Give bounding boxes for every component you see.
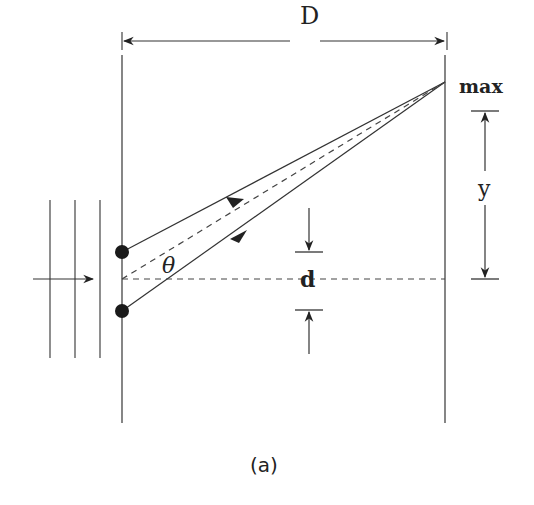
caption: (a)	[250, 455, 278, 475]
distance-dimension	[122, 32, 447, 50]
double-slit-diagram	[0, 0, 534, 505]
slit-separation-label: d	[300, 268, 315, 290]
plane-wavefronts	[33, 200, 100, 358]
height-label: y	[478, 178, 490, 200]
slit-top	[115, 245, 129, 259]
maximum-label: max	[459, 77, 503, 96]
slit-bottom	[115, 304, 129, 318]
distance-label: D	[300, 4, 319, 28]
angle-label: θ	[162, 255, 175, 277]
